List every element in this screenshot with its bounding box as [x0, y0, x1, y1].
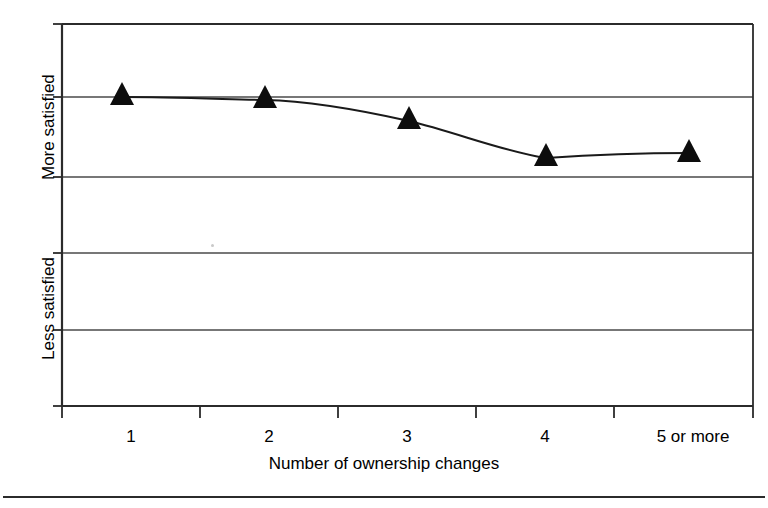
- x-tick-label-2: 2: [229, 428, 309, 445]
- x-tick-label-1: 1: [91, 428, 171, 445]
- figure-container: More satisfied Less satisfied 1 2 3 4 5 …: [0, 0, 768, 508]
- plot-background: [62, 24, 753, 406]
- x-axis-title: Number of ownership changes: [0, 455, 768, 472]
- x-tick-label-4: 4: [505, 428, 585, 445]
- y-axis-label-less-satisfied: Less satisfied: [40, 257, 57, 360]
- bottom-divider: [3, 496, 765, 498]
- scan-artifact-speck: [211, 244, 214, 247]
- x-axis-ticks: [62, 406, 753, 418]
- x-tick-label-3: 3: [367, 428, 447, 445]
- x-tick-label-5: 5 or more: [633, 428, 753, 445]
- y-axis-label-more-satisfied: More satisfied: [40, 74, 57, 180]
